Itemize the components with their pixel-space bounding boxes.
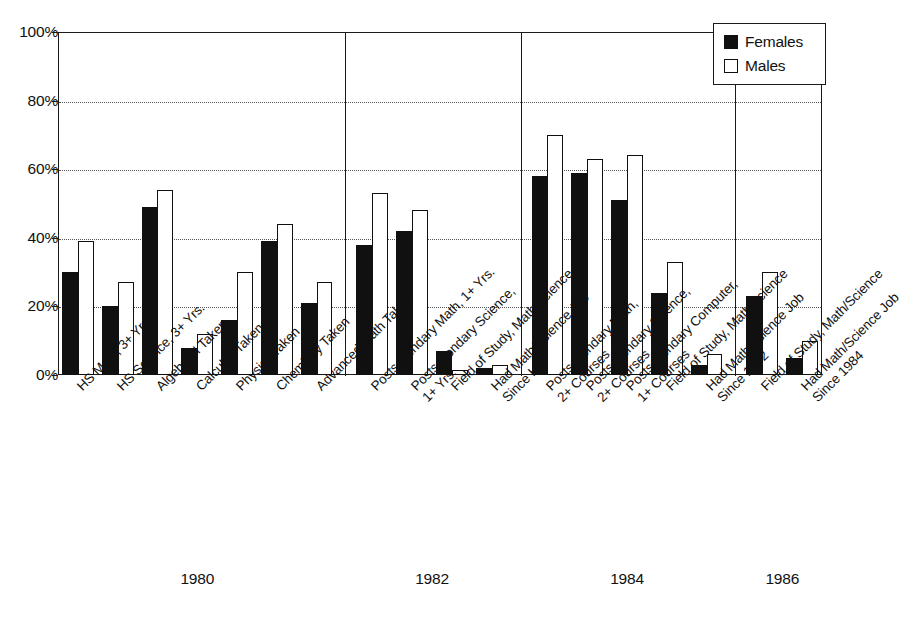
y-tick-label: 40% xyxy=(6,230,58,245)
group-separator xyxy=(345,33,346,376)
y-tick-label: 100% xyxy=(6,24,58,39)
legend: Females Males xyxy=(713,23,826,85)
legend-label-males: Males xyxy=(745,58,785,74)
gridline xyxy=(59,170,821,171)
y-tick-label: 60% xyxy=(6,161,58,176)
y-axis: 0%20%40%60%80%100% xyxy=(0,32,58,375)
y-tick-mark xyxy=(52,375,58,376)
legend-label-females: Females xyxy=(745,34,803,50)
gridline xyxy=(59,102,821,103)
plot-area xyxy=(58,32,822,375)
category-label-line: Since 1984 xyxy=(809,301,903,405)
gridline xyxy=(59,307,821,308)
y-tick-label: 80% xyxy=(6,93,58,108)
group-label-1982: 1982 xyxy=(397,570,467,588)
y-tick-label: 0% xyxy=(6,367,58,382)
y-tick-label: 20% xyxy=(6,298,58,313)
legend-swatch-females-icon xyxy=(724,35,738,49)
group-label-1984: 1984 xyxy=(592,570,662,588)
gridline xyxy=(59,239,821,240)
legend-item-females: Females xyxy=(724,30,825,54)
legend-item-males: Males xyxy=(724,54,825,78)
group-separator xyxy=(521,33,522,376)
legend-swatch-males-icon xyxy=(724,59,738,73)
group-label-1986: 1986 xyxy=(747,570,817,588)
group-label-1980: 1980 xyxy=(162,570,232,588)
